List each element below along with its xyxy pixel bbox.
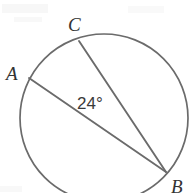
chord-ab bbox=[29, 78, 166, 172]
vertex-label-a: A bbox=[6, 64, 18, 83]
angle-measure-label: 24° bbox=[77, 95, 103, 112]
vertex-label-b: B bbox=[171, 177, 183, 193]
vertex-label-c: C bbox=[68, 15, 81, 34]
geometry-figure: A C B 24° bbox=[0, 0, 194, 193]
